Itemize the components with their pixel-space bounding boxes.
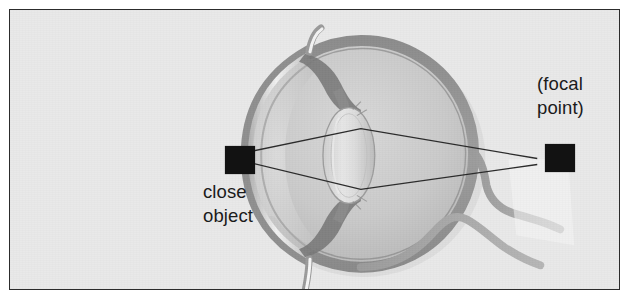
close-object-label-line1: close xyxy=(203,180,253,204)
focal-point-label-line2: point) xyxy=(537,96,584,120)
paper-highlight-patch xyxy=(508,160,574,246)
figure-plate: close object (focal point) xyxy=(9,9,620,290)
close-object-marker xyxy=(225,146,255,174)
eye-anatomy-illustration xyxy=(10,10,619,290)
focal-point-label: (focal point) xyxy=(537,72,584,120)
close-object-label: close object xyxy=(203,180,253,228)
focal-point-label-line1: (focal xyxy=(537,72,584,96)
close-object-label-line2: object xyxy=(203,204,253,228)
figure-root: close object (focal point) xyxy=(0,0,631,301)
focal-point-marker xyxy=(545,144,575,172)
